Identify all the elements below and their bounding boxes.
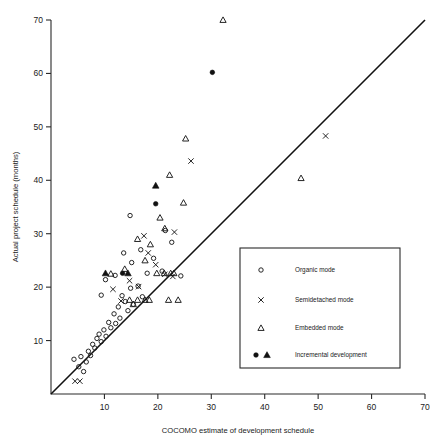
point-incremental-triangle: [102, 270, 109, 276]
x-tick-label: 70: [420, 402, 430, 412]
series-incremental-development: [102, 70, 214, 276]
point-organic: [103, 277, 107, 281]
point-organic: [113, 321, 117, 325]
point-semidetached: [153, 262, 158, 267]
point-semidetached: [172, 229, 177, 234]
point-organic: [97, 332, 101, 336]
point-organic: [179, 274, 183, 278]
point-organic: [126, 308, 130, 312]
chart-legend: Organic modeSemidetached modeEmbedded mo…: [240, 248, 400, 368]
point-organic: [104, 334, 108, 338]
point-organic: [121, 251, 125, 255]
legend-label: Incremental development: [295, 351, 367, 359]
point-semidetached: [188, 158, 193, 163]
point-organic: [170, 240, 174, 244]
point-organic: [145, 271, 149, 275]
point-organic: [128, 286, 132, 290]
point-embedded: [298, 175, 304, 181]
point-embedded: [126, 297, 132, 303]
point-organic: [107, 320, 111, 324]
x-tick-label: 50: [313, 402, 323, 412]
x-axis-title: COCOMO estimate of development schedule: [162, 426, 314, 435]
point-embedded: [180, 200, 186, 206]
point-organic: [84, 360, 88, 364]
legend-label: Organic mode: [295, 266, 336, 274]
point-embedded: [142, 257, 148, 263]
point-organic: [72, 357, 76, 361]
point-organic: [81, 369, 85, 373]
point-semidetached: [127, 278, 132, 283]
point-incremental-circle: [120, 271, 125, 276]
point-embedded: [167, 172, 173, 178]
point-organic: [139, 248, 143, 252]
x-tick-label: 20: [153, 402, 163, 412]
point-incremental-triangle: [152, 182, 159, 188]
scatter-chart: 1020304050607010203040506070 COCOMO esti…: [0, 0, 440, 445]
point-embedded: [154, 270, 160, 276]
series-organic-mode: [72, 213, 183, 373]
point-incremental-circle: [210, 70, 215, 75]
point-organic: [112, 312, 116, 316]
point-embedded: [175, 297, 181, 303]
point-incremental-triangle: [125, 270, 132, 276]
y-tick-label: 40: [34, 175, 44, 185]
point-semidetached: [146, 250, 151, 255]
point-organic: [128, 213, 132, 217]
y-tick-label: 30: [34, 229, 44, 239]
x-tick-label: 30: [207, 402, 217, 412]
point-embedded: [134, 297, 140, 303]
point-organic: [99, 293, 103, 297]
point-organic: [116, 305, 120, 309]
point-semidetached: [77, 378, 82, 383]
legend-label: Semidetached mode: [295, 296, 354, 303]
plot-svg: 1020304050607010203040506070 COCOMO esti…: [0, 0, 440, 445]
point-semidetached: [323, 133, 328, 138]
point-organic: [118, 316, 122, 320]
legend-label: Embedded mode: [295, 324, 344, 331]
y-tick-label: 70: [34, 15, 44, 25]
point-organic: [151, 256, 155, 260]
point-organic: [102, 328, 106, 332]
point-incremental-circle: [254, 353, 259, 358]
x-tick-label: 60: [367, 402, 377, 412]
point-organic: [109, 326, 113, 330]
point-embedded: [165, 297, 171, 303]
point-semidetached: [141, 233, 146, 238]
point-organic: [86, 349, 90, 353]
x-tick-label: 10: [100, 402, 110, 412]
point-embedded: [147, 241, 153, 247]
point-embedded: [220, 17, 226, 23]
point-organic: [95, 336, 99, 340]
point-semidetached: [72, 378, 77, 383]
y-tick-label: 60: [34, 68, 44, 78]
point-organic: [120, 293, 124, 297]
y-tick-label: 20: [34, 282, 44, 292]
point-embedded: [183, 136, 189, 142]
point-embedded: [134, 236, 140, 242]
point-embedded: [122, 266, 128, 272]
point-incremental-circle: [153, 201, 158, 206]
point-organic: [129, 260, 133, 264]
y-tick-label: 10: [34, 336, 44, 346]
y-tick-label: 50: [34, 122, 44, 132]
y-axis-title: Actual project schedule (months): [11, 151, 20, 262]
x-tick-label: 40: [260, 402, 270, 412]
point-semidetached: [110, 287, 115, 292]
point-embedded: [157, 215, 163, 221]
point-organic: [79, 354, 83, 358]
